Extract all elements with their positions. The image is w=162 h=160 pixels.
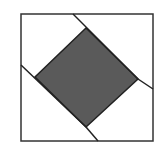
geometry-diagram: [0, 0, 162, 160]
